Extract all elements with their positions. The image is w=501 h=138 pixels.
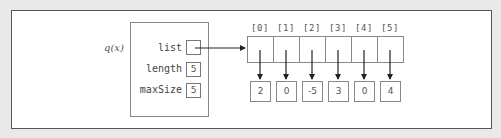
arrows-overlay <box>0 0 501 138</box>
element-pointer-arrows <box>260 50 390 79</box>
